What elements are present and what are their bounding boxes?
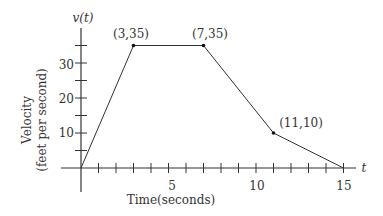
data-point (272, 131, 276, 135)
x-tick-label-15: 15 (336, 179, 351, 193)
data-point (202, 44, 206, 48)
y-axis-label-line1: Velocity (20, 96, 34, 145)
annotation-3-35: (3,35) (113, 27, 149, 41)
y-axis-name: v(t) (73, 11, 94, 25)
data-points (132, 44, 276, 135)
y-tick-label-30: 30 (59, 58, 74, 72)
x-axis-name: t (362, 161, 367, 175)
data-point (132, 44, 136, 48)
velocity-chart: 5 10 15 10 20 30 v(t) t Time(seconds) Ve… (0, 0, 383, 216)
y-tick-label-20: 20 (59, 92, 74, 106)
x-tick-label-5: 5 (168, 179, 176, 193)
x-axis-label: Time(seconds) (127, 193, 215, 207)
velocity-line (81, 46, 344, 169)
axes (61, 28, 356, 192)
annotation-7-35: (7,35) (192, 27, 228, 41)
annotation-11-10: (11,10) (279, 116, 323, 130)
y-axis-label-line2: (feet per second) (35, 68, 49, 172)
y-tick-label-10: 10 (59, 126, 74, 140)
x-tick-label-10: 10 (249, 179, 264, 193)
